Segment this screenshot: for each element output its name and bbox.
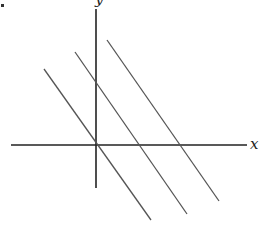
x-axis-label: x: [250, 135, 259, 153]
parallel-lines-diagram: x y: [0, 0, 261, 230]
parallel-line-2: [75, 52, 187, 214]
y-axis-label: y: [94, 0, 104, 8]
stray-mark: [1, 4, 4, 7]
parallel-line-3: [107, 40, 219, 201]
